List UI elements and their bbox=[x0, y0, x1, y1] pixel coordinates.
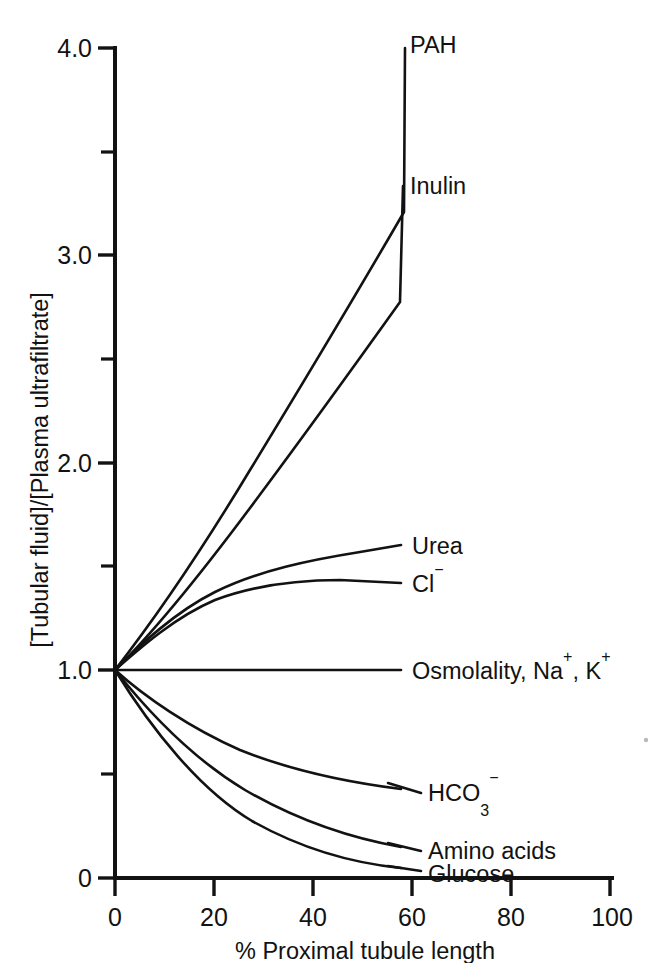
curve-urea bbox=[115, 545, 401, 670]
scan-speck bbox=[644, 738, 648, 742]
chloride-text: Cl bbox=[412, 571, 434, 597]
y-tick-label-2: 2.0 bbox=[57, 449, 92, 477]
curve-bicarbonate bbox=[115, 670, 401, 789]
na-charge-sup: + bbox=[563, 648, 572, 665]
bicarbonate-charge-sup: − bbox=[489, 769, 498, 786]
bicarbonate-subscript: 3 bbox=[480, 802, 489, 819]
series-label-pah: PAH bbox=[410, 32, 457, 58]
series-label-bicarbonate: HCO3− bbox=[428, 769, 498, 819]
x-tick-label-0: 0 bbox=[108, 903, 122, 931]
series-label-osmolality: Osmolality, Na+, K+ bbox=[412, 648, 610, 685]
y-tick-label-1: 1.0 bbox=[57, 656, 92, 684]
curve-inulin bbox=[115, 186, 403, 670]
bicarbonate-text: HCO bbox=[428, 780, 480, 806]
x-tick-label-60: 60 bbox=[398, 903, 426, 931]
x-tick-label-40: 40 bbox=[299, 903, 327, 931]
y-tick-label-0: 0 bbox=[78, 864, 92, 892]
osmolality-text: Osmolality, Na bbox=[412, 658, 564, 684]
x-tick-label-20: 20 bbox=[200, 903, 228, 931]
series-labels-group: PAH Inulin Urea Cl− Osmolality, Na+, K+ … bbox=[410, 32, 610, 887]
y-tick-group bbox=[98, 48, 115, 878]
leader-amino-acids bbox=[388, 843, 421, 851]
chloride-charge-sup: − bbox=[434, 561, 443, 578]
y-tick-label-3: 3.0 bbox=[57, 241, 92, 269]
leader-lines-group bbox=[388, 783, 421, 871]
series-label-glucose: Glucose bbox=[428, 861, 514, 887]
curve-pah bbox=[115, 48, 405, 670]
k-charge-sup: + bbox=[601, 648, 610, 665]
series-label-urea: Urea bbox=[412, 533, 464, 559]
proximal-tubule-chart: 4.0 3.0 2.0 1.0 0 0 20 40 60 80 100 % Pr… bbox=[0, 0, 669, 963]
x-tick-labels: 0 20 40 60 80 100 bbox=[108, 903, 633, 931]
leader-glucose bbox=[388, 866, 421, 871]
y-tick-label-4: 4.0 bbox=[57, 34, 92, 62]
figure-container: 4.0 3.0 2.0 1.0 0 0 20 40 60 80 100 % Pr… bbox=[0, 0, 669, 963]
x-tick-label-80: 80 bbox=[497, 903, 525, 931]
axis-group bbox=[115, 48, 612, 878]
x-tick-group bbox=[115, 878, 610, 896]
curves-group bbox=[115, 48, 405, 868]
curve-amino-acids bbox=[115, 670, 401, 847]
y-axis-title: [Tubular fluid]/[Plasma ultrafiltrate] bbox=[27, 292, 53, 648]
y-tick-labels: 4.0 3.0 2.0 1.0 0 bbox=[57, 34, 92, 892]
series-label-chloride: Cl− bbox=[412, 561, 444, 598]
osmolality-mid-text: , K bbox=[572, 658, 601, 684]
x-axis-title: % Proximal tubule length bbox=[235, 938, 495, 963]
x-tick-label-100: 100 bbox=[591, 903, 633, 931]
series-label-inulin: Inulin bbox=[410, 173, 466, 199]
